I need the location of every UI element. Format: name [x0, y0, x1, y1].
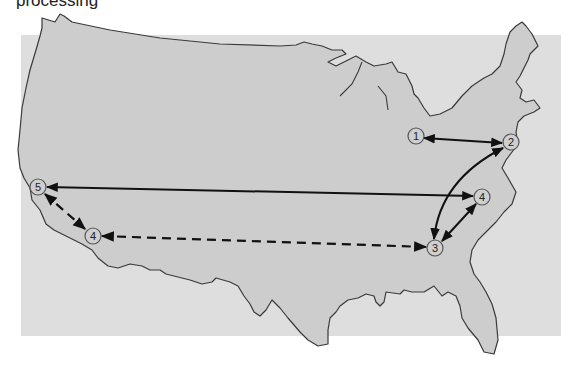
- svg-text:3: 3: [432, 242, 438, 254]
- svg-text:4: 4: [479, 191, 485, 203]
- node-4-east: 4: [474, 189, 490, 205]
- svg-text:4: 4: [90, 230, 96, 242]
- node-2: 2: [503, 134, 519, 150]
- node-4-west: 4: [85, 228, 101, 244]
- svg-text:5: 5: [35, 181, 41, 193]
- us-network-map: 1 2 4 3 5 4: [0, 0, 578, 379]
- node-1: 1: [408, 128, 424, 144]
- node-5: 5: [30, 179, 46, 195]
- svg-text:1: 1: [413, 130, 419, 142]
- svg-text:2: 2: [508, 136, 514, 148]
- node-3: 3: [427, 240, 443, 256]
